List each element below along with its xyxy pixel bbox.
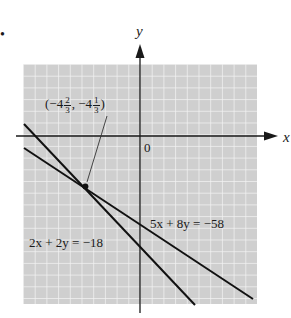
x-axis-label: x xyxy=(283,130,290,145)
y-whole: 4 xyxy=(86,96,93,111)
x-whole: 4 xyxy=(57,96,64,111)
y-fraction: 13 xyxy=(93,96,100,115)
y-axis-label: y xyxy=(136,24,143,39)
x-axis-arrow-icon xyxy=(264,132,278,141)
y-denominator: 3 xyxy=(93,106,100,115)
system-of-equations-graph xyxy=(0,0,291,318)
y-sign: − xyxy=(78,96,85,111)
equation-label-line2: 5x + 8y = −58 xyxy=(150,217,224,230)
intersection-point xyxy=(82,184,88,190)
x-fraction: 23 xyxy=(64,96,71,115)
intersection-label: (−423, −413) xyxy=(45,96,105,115)
paren-close: ) xyxy=(101,96,105,111)
x-denominator: 3 xyxy=(64,106,71,115)
x-sign: − xyxy=(49,96,56,111)
equation-label-line1: 2x + 2y = −18 xyxy=(29,236,103,249)
origin-label: 0 xyxy=(144,141,151,154)
y-axis-arrow-icon xyxy=(136,44,145,58)
bullet-marker: • xyxy=(0,28,5,42)
